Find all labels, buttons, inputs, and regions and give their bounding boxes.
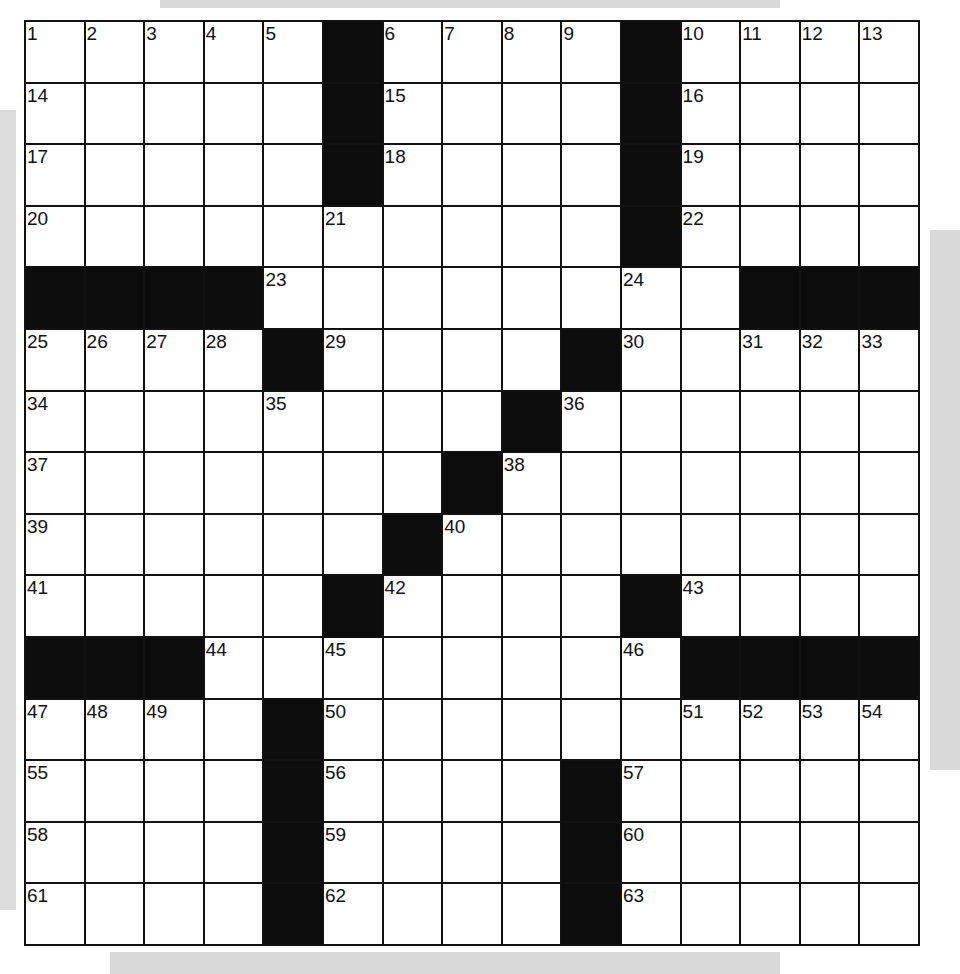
grid-cell[interactable]: 43 (682, 576, 740, 636)
grid-cell[interactable] (801, 761, 859, 821)
grid-cell[interactable] (562, 700, 620, 760)
grid-cell[interactable]: 5 (264, 22, 322, 82)
grid-cell[interactable] (205, 576, 263, 636)
grid-cell[interactable]: 62 (324, 884, 382, 944)
grid-cell[interactable] (503, 84, 561, 144)
grid-cell[interactable] (503, 268, 561, 328)
grid-cell[interactable] (384, 700, 442, 760)
grid-cell[interactable]: 1 (26, 22, 84, 82)
grid-cell[interactable] (264, 453, 322, 513)
grid-cell[interactable] (503, 576, 561, 636)
grid-cell[interactable] (860, 515, 918, 575)
grid-cell[interactable] (205, 392, 263, 452)
grid-cell[interactable]: 42 (384, 576, 442, 636)
grid-cell[interactable] (86, 576, 144, 636)
grid-cell[interactable]: 45 (324, 638, 382, 698)
grid-cell[interactable] (622, 515, 680, 575)
grid-cell[interactable] (562, 515, 620, 575)
grid-cell[interactable] (86, 453, 144, 513)
grid-cell[interactable] (384, 823, 442, 883)
grid-cell[interactable]: 29 (324, 330, 382, 390)
grid-cell[interactable] (741, 515, 799, 575)
grid-cell[interactable] (145, 453, 203, 513)
grid-cell[interactable]: 24 (622, 268, 680, 328)
grid-cell[interactable] (324, 453, 382, 513)
grid-cell[interactable] (741, 884, 799, 944)
grid-cell[interactable]: 44 (205, 638, 263, 698)
grid-cell[interactable] (443, 207, 501, 267)
grid-cell[interactable] (443, 884, 501, 944)
grid-cell[interactable]: 22 (682, 207, 740, 267)
grid-cell[interactable]: 59 (324, 823, 382, 883)
grid-cell[interactable]: 13 (860, 22, 918, 82)
grid-cell[interactable]: 2 (86, 22, 144, 82)
grid-cell[interactable] (145, 392, 203, 452)
grid-cell[interactable] (205, 453, 263, 513)
grid-cell[interactable] (86, 823, 144, 883)
grid-cell[interactable]: 31 (741, 330, 799, 390)
grid-cell[interactable]: 11 (741, 22, 799, 82)
grid-cell[interactable]: 8 (503, 22, 561, 82)
grid-cell[interactable] (503, 884, 561, 944)
grid-cell[interactable] (682, 453, 740, 513)
grid-cell[interactable] (205, 515, 263, 575)
grid-cell[interactable] (801, 145, 859, 205)
grid-cell[interactable] (741, 207, 799, 267)
grid-cell[interactable] (86, 84, 144, 144)
grid-cell[interactable] (86, 884, 144, 944)
grid-cell[interactable]: 50 (324, 700, 382, 760)
grid-cell[interactable] (324, 392, 382, 452)
grid-cell[interactable] (384, 392, 442, 452)
grid-cell[interactable] (503, 823, 561, 883)
grid-cell[interactable] (562, 268, 620, 328)
grid-cell[interactable] (384, 330, 442, 390)
grid-cell[interactable] (860, 884, 918, 944)
grid-cell[interactable] (264, 207, 322, 267)
grid-cell[interactable] (801, 392, 859, 452)
grid-cell[interactable] (682, 392, 740, 452)
grid-cell[interactable] (741, 823, 799, 883)
grid-cell[interactable]: 34 (26, 392, 84, 452)
grid-cell[interactable]: 18 (384, 145, 442, 205)
grid-cell[interactable] (86, 515, 144, 575)
grid-cell[interactable]: 15 (384, 84, 442, 144)
grid-cell[interactable]: 56 (324, 761, 382, 821)
grid-cell[interactable] (741, 761, 799, 821)
grid-cell[interactable] (503, 515, 561, 575)
grid-cell[interactable] (443, 268, 501, 328)
grid-cell[interactable] (741, 392, 799, 452)
grid-cell[interactable]: 7 (443, 22, 501, 82)
grid-cell[interactable]: 58 (26, 823, 84, 883)
grid-cell[interactable] (562, 453, 620, 513)
grid-cell[interactable] (503, 638, 561, 698)
grid-cell[interactable] (324, 515, 382, 575)
grid-cell[interactable]: 52 (741, 700, 799, 760)
grid-cell[interactable]: 39 (26, 515, 84, 575)
grid-cell[interactable]: 30 (622, 330, 680, 390)
grid-cell[interactable] (145, 823, 203, 883)
grid-cell[interactable] (682, 515, 740, 575)
grid-cell[interactable] (384, 453, 442, 513)
grid-cell[interactable] (86, 761, 144, 821)
grid-cell[interactable] (205, 84, 263, 144)
grid-cell[interactable] (443, 392, 501, 452)
grid-cell[interactable] (562, 638, 620, 698)
grid-cell[interactable] (682, 268, 740, 328)
grid-cell[interactable] (741, 453, 799, 513)
grid-cell[interactable]: 36 (562, 392, 620, 452)
grid-cell[interactable] (384, 638, 442, 698)
grid-cell[interactable] (145, 515, 203, 575)
grid-cell[interactable] (443, 84, 501, 144)
grid-cell[interactable]: 6 (384, 22, 442, 82)
grid-cell[interactable] (384, 207, 442, 267)
grid-cell[interactable] (741, 145, 799, 205)
grid-cell[interactable] (145, 207, 203, 267)
grid-cell[interactable] (145, 761, 203, 821)
grid-cell[interactable] (503, 145, 561, 205)
grid-cell[interactable] (801, 515, 859, 575)
grid-cell[interactable] (562, 207, 620, 267)
grid-cell[interactable] (205, 700, 263, 760)
grid-cell[interactable]: 23 (264, 268, 322, 328)
grid-cell[interactable]: 9 (562, 22, 620, 82)
grid-cell[interactable]: 10 (682, 22, 740, 82)
